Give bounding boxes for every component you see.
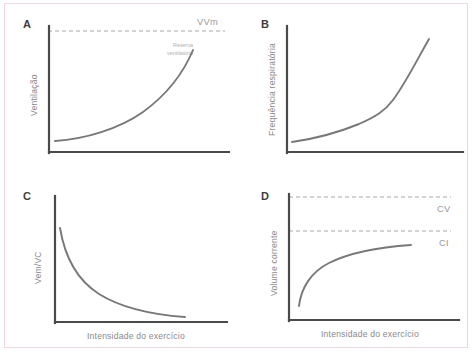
panel-a-y-axis-label: Ventilação: [29, 74, 39, 116]
panel-d-x-axis-label: Intensidade do exercício: [321, 329, 419, 339]
panel-a-letter: A: [23, 18, 31, 30]
vvm-label: VVm: [197, 16, 218, 27]
reserva-note-line1: Reserva: [173, 42, 193, 48]
panel-c-y-axis-label: Vem/VC: [33, 251, 43, 284]
figure-frame: A VVm Reserva ventilatória Ventilação B …: [4, 3, 468, 348]
panel-c: C Vem/VC Intensidade do exercício: [15, 184, 241, 350]
figure-container: A VVm Reserva ventilatória Ventilação B …: [0, 0, 472, 352]
ci-label: CI: [439, 237, 449, 248]
panel-d-y-axis-label: Volume corrente: [269, 230, 279, 296]
cv-label: CV: [437, 203, 451, 214]
ventilation-curve: [55, 50, 193, 141]
panel-b-letter: B: [261, 18, 269, 30]
reserva-note-line2: ventilatória: [167, 50, 193, 56]
panel-a: A VVm Reserva ventilatória Ventilação: [15, 12, 241, 180]
respiratory-rate-curve: [292, 39, 429, 142]
panel-d-letter: D: [261, 190, 269, 202]
panel-c-x-axis-label: Intensidade do exercício: [87, 331, 185, 341]
panel-b: B Frequência respiratória: [251, 12, 471, 180]
tidal-volume-curve: [299, 245, 411, 306]
panel-d: D CV CI Volume corrente Intensidade do e…: [251, 184, 471, 350]
vem-vc-curve: [60, 228, 185, 317]
panel-c-letter: C: [23, 190, 31, 202]
panel-b-y-axis-label: Frequência respiratória: [267, 43, 277, 136]
